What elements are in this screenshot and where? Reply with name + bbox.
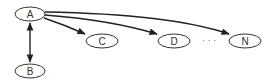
node-b-label: B xyxy=(27,66,34,77)
graph-diagram: A B C D N · · · xyxy=(0,0,277,81)
node-d-label: D xyxy=(170,36,177,47)
node-b: B xyxy=(15,64,45,78)
edge-a-c xyxy=(44,18,85,34)
node-a: A xyxy=(15,7,45,21)
node-n: N xyxy=(229,34,261,48)
ellipsis-dots: · · · xyxy=(202,35,216,45)
node-n-label: N xyxy=(241,36,248,47)
node-d: D xyxy=(158,34,190,48)
edge-a-n xyxy=(45,12,229,34)
node-c: C xyxy=(86,34,118,48)
edges xyxy=(30,12,229,62)
node-c-label: C xyxy=(98,36,105,47)
node-a-label: A xyxy=(27,9,34,20)
